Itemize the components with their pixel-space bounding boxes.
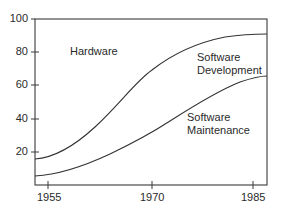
y-tick-20: 20 [0,145,28,157]
y-tick-60: 60 [0,78,28,90]
region-label-hardware: Hardware [70,45,118,58]
chart-canvas [0,0,281,216]
x-tick-1970: 1970 [140,191,164,203]
y-tick-80: 80 [0,45,28,57]
x-tick-1955: 1955 [37,191,61,203]
x-tick-1985: 1985 [241,191,265,203]
region-label-software-development-line1: Software [197,51,240,64]
region-label-software-maintenance-line2: Maintenance [187,124,250,137]
region-label-software-maintenance-line1: Software [187,111,230,124]
y-tick-100: 100 [0,12,28,24]
region-label-software-development-line2: Development [197,64,262,77]
plot-frame [35,19,267,185]
y-tick-40: 40 [0,112,28,124]
